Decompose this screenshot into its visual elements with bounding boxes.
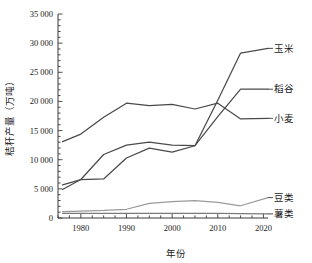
y-tick-label: 35 000 (30, 9, 53, 19)
series-line (63, 213, 268, 214)
series-label: 小麦 (274, 113, 294, 124)
series-label: 玉米 (274, 43, 294, 54)
data-series (63, 48, 268, 214)
y-tick-label: 15 000 (30, 126, 53, 136)
series-label: 豆类 (274, 192, 294, 203)
series-line (63, 198, 268, 212)
series-labels: 玉米稻谷小麦豆类薯类 (268, 43, 294, 220)
y-tick-label: 10 000 (30, 155, 53, 165)
series-label: 薯类 (274, 208, 294, 219)
chart-canvas: 05 00010 00015 00020 00025 00030 00035 0… (0, 0, 312, 263)
x-tick-label: 1990 (118, 223, 135, 233)
y-tick-label: 0 (49, 213, 53, 223)
y-tick-label: 20 000 (30, 96, 53, 106)
series-label: 稻谷 (274, 84, 294, 94)
x-tick-label: 2010 (209, 223, 226, 233)
x-axis-title: 年份 (166, 248, 186, 259)
series-line (63, 48, 268, 189)
x-tick-label: 2020 (255, 223, 272, 233)
series-line (63, 89, 268, 185)
y-axis-title: 秸秆产量（万吨） (4, 76, 15, 156)
straw-yield-line-chart: 05 00010 00015 00020 00025 00030 00035 0… (0, 0, 312, 263)
x-tick-label: 1980 (72, 223, 89, 233)
series-line (63, 103, 268, 141)
y-tick-label: 30 000 (30, 38, 53, 48)
x-tick-label: 2000 (164, 223, 181, 233)
y-tick-label: 5 000 (34, 184, 53, 194)
x-axis-ticks: 19801990200020102020 (58, 214, 272, 234)
y-tick-label: 25 000 (30, 67, 53, 77)
